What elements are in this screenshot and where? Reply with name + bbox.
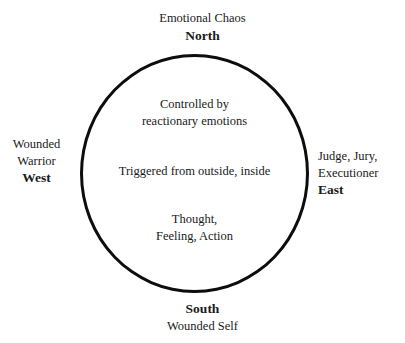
- east-descriptor-line-2: Executioner: [318, 165, 405, 182]
- east-direction: East: [318, 181, 405, 199]
- west-descriptor-line-2: Warrior: [0, 153, 73, 170]
- west-label-group: Wounded Warrior West: [0, 136, 73, 187]
- west-descriptor-line-1: Wounded: [0, 136, 73, 153]
- inner-text-top: Controlled by reactionary emotions: [80, 96, 309, 129]
- inner-top-line-2: reactionary emotions: [80, 113, 309, 130]
- south-label-group: South Wounded Self: [0, 300, 405, 334]
- inner-text-bottom: Thought, Feeling, Action: [80, 211, 309, 244]
- east-label-group: Judge, Jury, Executioner East: [318, 148, 405, 199]
- inner-text-middle: Triggered from outside, inside: [80, 163, 309, 180]
- inner-top-line-1: Controlled by: [80, 96, 309, 113]
- south-descriptor: Wounded Self: [0, 318, 405, 335]
- north-descriptor: Emotional Chaos: [0, 10, 405, 27]
- east-descriptor-line-1: Judge, Jury,: [318, 148, 405, 165]
- north-direction: North: [0, 27, 405, 45]
- inner-bottom-line-2: Feeling, Action: [80, 228, 309, 245]
- west-direction: West: [0, 169, 73, 187]
- south-direction: South: [0, 300, 405, 318]
- inner-bottom-line-1: Thought,: [80, 211, 309, 228]
- inner-middle-line-1: Triggered from outside, inside: [80, 163, 309, 180]
- north-label-group: Emotional Chaos North: [0, 10, 405, 44]
- diagram-canvas: Emotional Chaos North Wounded Warrior We…: [0, 0, 405, 343]
